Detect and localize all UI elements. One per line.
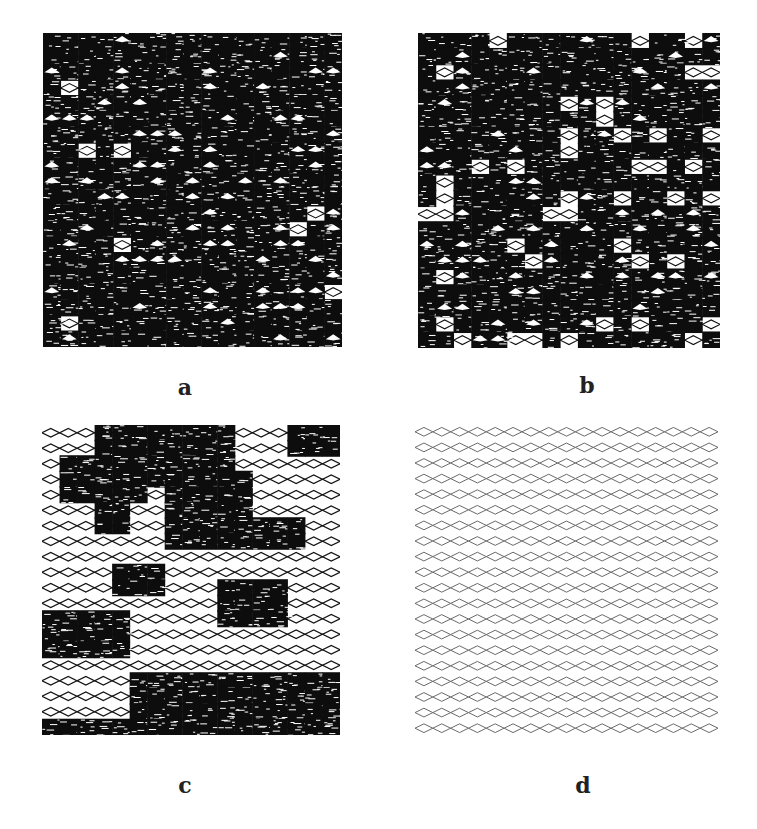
panel-a bbox=[43, 33, 342, 347]
panel-a-label: a bbox=[165, 376, 205, 398]
panel-d-label: d bbox=[563, 774, 603, 796]
figure: a b c d bbox=[0, 0, 757, 829]
panel-a-lattice-canvas bbox=[43, 33, 342, 347]
panel-b-label: b bbox=[567, 374, 607, 396]
panel-c-label: c bbox=[165, 774, 205, 796]
panel-c-lattice-canvas bbox=[42, 425, 340, 735]
panel-b bbox=[418, 33, 720, 348]
panel-c bbox=[42, 425, 340, 735]
panel-d-lattice-canvas bbox=[415, 424, 718, 736]
panel-b-lattice-canvas bbox=[418, 33, 720, 348]
panel-d bbox=[415, 424, 718, 736]
